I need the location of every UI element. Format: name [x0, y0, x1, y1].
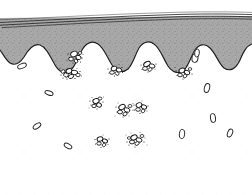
- rod-in-mucus: [194, 49, 200, 57]
- rod-8: [179, 129, 185, 139]
- figure-container: Mucosal surface cross-section with bacte…: [0, 0, 252, 195]
- mucosal-cross-section-illustration: [0, 0, 252, 195]
